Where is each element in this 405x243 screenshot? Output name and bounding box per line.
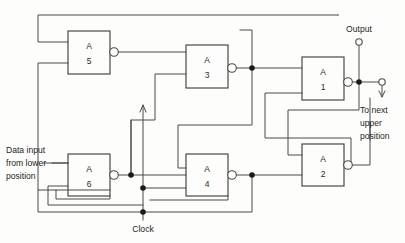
junction-layer	[128, 65, 362, 215]
gate-a2-number: 2	[321, 169, 326, 179]
gate-a5-box[interactable]	[68, 31, 110, 74]
gate-a2-box[interactable]	[302, 144, 344, 186]
circuit-canvas: A 5 A 3 A 1 A 6 A 4 A 2	[0, 0, 405, 243]
a4-output-junction	[249, 172, 255, 178]
wire-a3-branch-to-top-bus	[240, 30, 252, 68]
wire-a4-branch-down	[143, 175, 252, 212]
output-label: Output	[346, 24, 372, 34]
wire-a6-local-loop	[56, 190, 110, 199]
gate-a1-invert-bubble	[344, 78, 353, 87]
gate-a5-number: 5	[87, 56, 92, 66]
data-input-label-line3: position	[6, 171, 36, 181]
gate-a1-letter: A	[320, 67, 326, 77]
gate-a1-number: 1	[321, 82, 326, 92]
gate-a4-invert-bubble	[228, 171, 237, 180]
wire-a5-input-lower	[38, 63, 110, 190]
wire-top-feedback-bus	[38, 15, 338, 42]
to-next-label-line2: upper	[360, 118, 382, 128]
clock-bus-junction	[140, 185, 146, 191]
wire-a3-branch-down-to-a4	[178, 68, 252, 168]
gate-a6-number: 6	[87, 179, 92, 189]
terminal-layer	[356, 39, 385, 85]
gate-a6-invert-bubble	[110, 171, 119, 180]
gate-a3-letter: A	[204, 55, 210, 65]
data-input-label-line1: Data input	[6, 145, 46, 155]
gate-layer: A 5 A 3 A 1 A 6 A 4 A 2	[68, 31, 352, 196]
clock-lower-junction	[140, 209, 146, 215]
wire-lower-return-bus	[38, 190, 143, 212]
a3-output-junction	[249, 65, 255, 71]
gate-a6-letter: A	[86, 164, 92, 174]
a6-output-junction	[128, 172, 134, 178]
gate-a3-box[interactable]	[186, 45, 228, 88]
wire-a2-out-to-a1-input	[265, 93, 351, 165]
annotation-layer: Output To next upper position Data input…	[6, 24, 390, 234]
next-stage-terminal[interactable]	[379, 79, 385, 85]
to-next-label-line1: To next	[360, 105, 388, 115]
logic-diagram-figure: A 5 A 3 A 1 A 6 A 4 A 2	[0, 0, 405, 243]
gate-a5-invert-bubble	[110, 48, 119, 57]
data-input-label-line2: from lower	[6, 158, 46, 168]
gate-a5-letter: A	[86, 41, 92, 51]
gate-a3-invert-bubble	[228, 64, 237, 73]
gate-a4-number: 4	[205, 179, 210, 189]
gate-a2-invert-bubble	[344, 161, 353, 170]
gate-a4-letter: A	[204, 164, 210, 174]
wire-a4-local-loop	[150, 196, 228, 200]
gate-a4-box[interactable]	[186, 154, 228, 196]
to-next-label-line3: position	[360, 131, 390, 141]
gate-a1-box[interactable]	[302, 57, 344, 100]
gate-a3-number: 3	[205, 70, 210, 80]
a1-output-junction	[356, 79, 362, 85]
output-terminal[interactable]	[356, 39, 362, 45]
clock-label: Clock	[132, 224, 154, 234]
gate-a2-letter: A	[320, 154, 326, 164]
